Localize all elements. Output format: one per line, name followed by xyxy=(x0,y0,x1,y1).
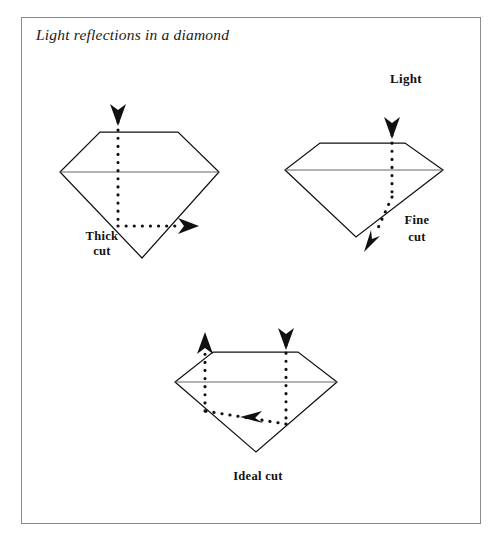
ideal-cut-diamond: Ideal cut xyxy=(175,328,337,483)
thick-cut-gem-outline xyxy=(60,132,219,258)
ideal-cut-entry-arrow-icon xyxy=(278,328,294,350)
fine-cut-label-line1: Fine xyxy=(405,213,430,227)
ideal-cut-mid-arrow-icon xyxy=(240,411,263,423)
ideal-cut-exit-arrow-icon xyxy=(197,332,213,354)
thick-cut-label-line1: Thick xyxy=(86,229,119,243)
thick-cut-label-line2: cut xyxy=(93,244,111,258)
ideal-cut-gem-outline xyxy=(175,352,337,452)
thick-cut-entry-arrow-icon xyxy=(110,104,126,126)
fine-cut-leaking-ray xyxy=(378,197,392,228)
figure-page: Light reflections in a diamond Light Thi… xyxy=(0,0,500,550)
fine-cut-label-line2: cut xyxy=(408,230,426,244)
fine-cut-exit-arrow-icon xyxy=(364,230,380,252)
fine-cut-entry-arrow-icon xyxy=(384,117,400,139)
ideal-cut-label: Ideal cut xyxy=(233,469,283,483)
thick-cut-diamond: Thick cut xyxy=(60,104,219,258)
diagram-canvas: Light Thick cut xyxy=(0,0,500,550)
light-source-label: Light xyxy=(390,71,422,86)
thick-cut-exit-arrow-icon xyxy=(178,218,199,234)
fine-cut-diamond: Fine cut xyxy=(285,117,443,252)
